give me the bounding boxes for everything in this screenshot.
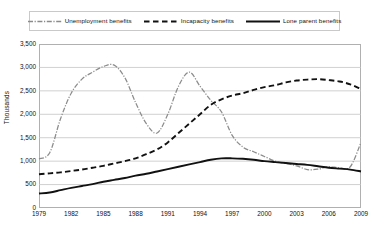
x-axis-tick: 1985 xyxy=(88,211,118,217)
legend-label-unemployment-benefits: Unemployment benefits xyxy=(65,18,132,24)
legend-item-incapacity-benefits: Incapacity benefits xyxy=(144,18,234,25)
y-axis-tick: 500 xyxy=(4,181,36,187)
legend-label-incapacity-benefits: Incapacity benefits xyxy=(181,18,234,24)
solid-line-swatch-icon xyxy=(246,18,280,25)
x-axis-tick: 2003 xyxy=(282,211,312,217)
x-axis-tick: 2009 xyxy=(346,211,373,217)
y-axis-tick: 1,500 xyxy=(4,135,36,141)
x-axis-tick-labels: 1979198219851988199119941997200020032006… xyxy=(39,211,361,225)
x-axis-tick: 1991 xyxy=(153,211,183,217)
x-axis-tick: 2006 xyxy=(314,211,344,217)
series-line-incapacity-benefits xyxy=(39,79,361,174)
y-axis-tick: 2,500 xyxy=(4,88,36,94)
dashed-line-swatch-icon xyxy=(144,18,178,25)
x-axis-tick: 1994 xyxy=(185,211,215,217)
legend-item-unemployment-benefits: Unemployment benefits xyxy=(28,18,132,25)
plot-series-layer xyxy=(39,44,361,208)
y-axis-tick: 1,000 xyxy=(4,158,36,164)
x-axis-tick: 2000 xyxy=(249,211,279,217)
x-axis-tick: 1979 xyxy=(24,211,54,217)
y-axis-tick: 3,000 xyxy=(4,64,36,70)
y-axis-tick: 2,000 xyxy=(4,111,36,117)
x-axis-tick: 1982 xyxy=(56,211,86,217)
x-axis-tick: 1997 xyxy=(217,211,247,217)
series-line-lone-parent-benefits xyxy=(39,158,361,193)
y-axis-tick: 3,500 xyxy=(4,41,36,47)
y-axis-tick-labels: 05001,0001,5002,0002,5003,0003,500 xyxy=(0,0,36,242)
x-axis-tick: 1988 xyxy=(121,211,151,217)
legend-label-lone-parent-benefits: Lone parent benefits xyxy=(283,18,341,24)
legend-item-lone-parent-benefits: Lone parent benefits xyxy=(246,18,341,25)
chart-legend: Unemployment benefits Incapacity benefit… xyxy=(29,11,340,31)
